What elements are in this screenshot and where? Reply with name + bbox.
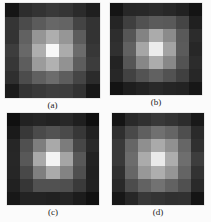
heatmap-cell bbox=[176, 16, 189, 29]
heatmap-cell bbox=[20, 152, 33, 165]
heatmap-cell bbox=[32, 44, 46, 58]
heatmap-cell bbox=[19, 17, 33, 31]
heatmap-cell bbox=[163, 69, 176, 82]
heatmap-cell bbox=[191, 139, 204, 152]
heatmap-cell bbox=[46, 84, 60, 98]
heatmap-cell bbox=[73, 84, 87, 98]
heatmap-cell bbox=[60, 192, 73, 205]
heatmap-cell bbox=[112, 166, 125, 179]
heatmap-cell bbox=[112, 126, 125, 139]
heatmap-cell bbox=[32, 84, 46, 98]
heatmap-cell bbox=[59, 71, 73, 85]
heatmap-cell bbox=[86, 113, 99, 126]
heatmap-cell bbox=[138, 126, 151, 139]
heatmap-cell bbox=[5, 84, 19, 98]
heatmap-cell bbox=[5, 30, 19, 44]
heatmap-cell bbox=[86, 84, 100, 98]
heatmap-cell bbox=[73, 3, 87, 17]
heatmap-cell bbox=[176, 42, 189, 55]
heatmap-cell bbox=[110, 42, 123, 55]
heatmap-cell bbox=[112, 152, 125, 165]
heatmap-cell bbox=[123, 3, 136, 16]
heatmap-cell bbox=[20, 166, 33, 179]
heatmap-cell bbox=[5, 17, 19, 31]
heatmap-cell bbox=[73, 179, 86, 192]
heatmap-cell bbox=[59, 3, 73, 17]
heatmap-cell bbox=[73, 152, 86, 165]
heatmap-cell bbox=[189, 69, 202, 82]
heatmap-cell bbox=[178, 179, 191, 192]
heatmap-cell bbox=[123, 82, 136, 95]
heatmap-cell bbox=[33, 152, 46, 165]
heatmap-a bbox=[5, 3, 100, 98]
heatmap-cell bbox=[151, 166, 164, 179]
heatmap-cell bbox=[165, 192, 178, 205]
heatmap-cell bbox=[125, 152, 138, 165]
heatmap-cell bbox=[189, 82, 202, 95]
heatmap-cell bbox=[165, 166, 178, 179]
heatmap-cell bbox=[110, 3, 123, 16]
heatmap-cell bbox=[33, 139, 46, 152]
heatmap-cell bbox=[86, 126, 99, 139]
heatmap-cell bbox=[73, 30, 87, 44]
heatmap-cell bbox=[163, 82, 176, 95]
heatmap-cell bbox=[191, 179, 204, 192]
heatmap-cell bbox=[19, 84, 33, 98]
heatmap-cell bbox=[136, 56, 149, 69]
heatmap-cell bbox=[189, 56, 202, 69]
heatmap-cell bbox=[110, 16, 123, 29]
heatmap-cell bbox=[19, 57, 33, 71]
heatmap-cell bbox=[138, 192, 151, 205]
heatmap-cell bbox=[178, 192, 191, 205]
heatmap-cell bbox=[125, 139, 138, 152]
heatmap-cell bbox=[136, 42, 149, 55]
heatmap-cell bbox=[163, 56, 176, 69]
heatmap-cell bbox=[178, 139, 191, 152]
heatmap-cell bbox=[33, 192, 46, 205]
heatmap-cell bbox=[20, 139, 33, 152]
heatmap-cell bbox=[19, 44, 33, 58]
heatmap-cell bbox=[86, 179, 99, 192]
heatmap-cell bbox=[46, 166, 59, 179]
heatmap-cell bbox=[33, 126, 46, 139]
heatmap-cell bbox=[123, 69, 136, 82]
heatmap-cell bbox=[163, 42, 176, 55]
heatmap-cell bbox=[149, 56, 162, 69]
heatmap-cell bbox=[33, 166, 46, 179]
heatmap-cell bbox=[32, 57, 46, 71]
heatmap-cell bbox=[189, 42, 202, 55]
heatmap-cell bbox=[136, 69, 149, 82]
heatmap-cell bbox=[165, 126, 178, 139]
panel-a: (a) bbox=[5, 3, 100, 111]
heatmap-cell bbox=[165, 152, 178, 165]
heatmap-cell bbox=[73, 192, 86, 205]
panel-d: (d) bbox=[112, 113, 204, 218]
heatmap-cell bbox=[151, 126, 164, 139]
heatmap-cell bbox=[86, 152, 99, 165]
heatmap-cell bbox=[163, 3, 176, 16]
heatmap-cell bbox=[59, 57, 73, 71]
panel-caption-c: (c) bbox=[7, 206, 99, 218]
heatmap-cell bbox=[112, 179, 125, 192]
heatmap-cell bbox=[178, 113, 191, 126]
heatmap-cell bbox=[73, 71, 87, 85]
heatmap-cell bbox=[7, 166, 20, 179]
heatmap-cell bbox=[73, 44, 87, 58]
heatmap-cell bbox=[178, 166, 191, 179]
heatmap-cell bbox=[136, 16, 149, 29]
heatmap-cell bbox=[86, 44, 100, 58]
figure-container: (a) (b) (c) (d) bbox=[0, 0, 211, 222]
heatmap-cell bbox=[59, 84, 73, 98]
heatmap-cell bbox=[149, 82, 162, 95]
heatmap-cell bbox=[46, 30, 60, 44]
heatmap-cell bbox=[32, 30, 46, 44]
heatmap-cell bbox=[86, 139, 99, 152]
heatmap-cell bbox=[60, 139, 73, 152]
heatmap-cell bbox=[60, 126, 73, 139]
heatmap-cell bbox=[191, 152, 204, 165]
heatmap-cell bbox=[138, 113, 151, 126]
heatmap-cell bbox=[86, 166, 99, 179]
heatmap-cell bbox=[32, 17, 46, 31]
heatmap-cell bbox=[151, 139, 164, 152]
heatmap-cell bbox=[125, 126, 138, 139]
